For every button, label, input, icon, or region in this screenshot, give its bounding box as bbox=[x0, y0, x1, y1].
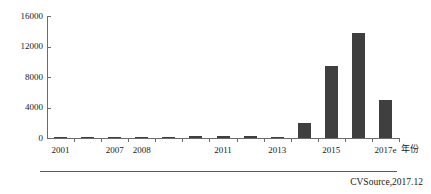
x-axis-title: 年份 bbox=[401, 144, 419, 155]
horizontal-rule bbox=[40, 171, 397, 172]
x-axis-tick-label: 2001 bbox=[41, 145, 81, 155]
bar bbox=[379, 100, 392, 138]
x-axis-tick bbox=[318, 138, 319, 142]
source-caption: CVSource,2017.12 bbox=[350, 176, 423, 188]
bar bbox=[217, 136, 230, 138]
bar bbox=[298, 123, 311, 138]
x-axis-tick bbox=[182, 138, 183, 142]
x-axis-tick bbox=[237, 138, 238, 142]
bar bbox=[81, 137, 94, 138]
x-axis-tick bbox=[128, 138, 129, 142]
x-axis-tick bbox=[345, 138, 346, 142]
x-axis-tick-label: 2008 bbox=[122, 145, 162, 155]
bar bbox=[271, 137, 284, 138]
bar bbox=[244, 136, 257, 138]
x-axis-tick-label: 2017e bbox=[365, 145, 405, 155]
bar-series bbox=[0, 16, 431, 138]
x-axis-tick bbox=[74, 138, 75, 142]
bar bbox=[108, 137, 121, 138]
x-axis-tick bbox=[372, 138, 373, 142]
x-axis-tick-label: 2015 bbox=[311, 145, 351, 155]
bar bbox=[352, 33, 365, 138]
x-axis-tick bbox=[101, 138, 102, 142]
y-axis-tick bbox=[47, 138, 51, 139]
bar bbox=[162, 137, 175, 138]
bar bbox=[135, 137, 148, 138]
x-axis-tick-label: 2011 bbox=[203, 145, 243, 155]
x-axis-tick bbox=[399, 138, 400, 142]
plot-area: 0400080001200016000 20012007200820112013… bbox=[0, 0, 431, 160]
x-axis-tick-label: 2013 bbox=[257, 145, 297, 155]
bar bbox=[54, 137, 67, 138]
chart-figure: 0400080001200016000 20012007200820112013… bbox=[0, 0, 431, 194]
x-axis-tick bbox=[209, 138, 210, 142]
x-axis-line bbox=[47, 138, 399, 139]
bar bbox=[325, 66, 338, 138]
bar bbox=[189, 136, 202, 138]
x-axis-tick bbox=[291, 138, 292, 142]
x-axis-tick bbox=[155, 138, 156, 142]
x-axis-tick bbox=[264, 138, 265, 142]
